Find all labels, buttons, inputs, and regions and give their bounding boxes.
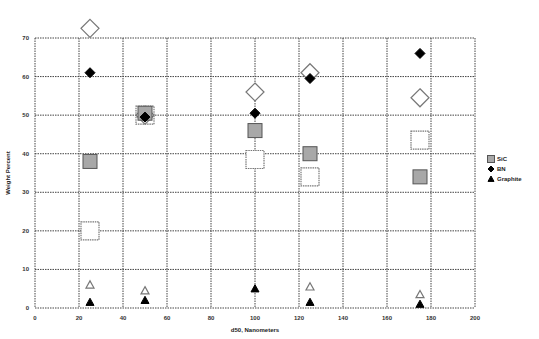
x-tick-label: 60	[164, 315, 171, 321]
x-tick-label: 160	[382, 315, 393, 321]
y-tick-label: 30	[22, 189, 29, 195]
y-axis-title: Weight Percent	[5, 151, 11, 195]
legend-item: Graphite	[488, 176, 522, 182]
grid-lines	[35, 38, 475, 308]
x-tick-label: 120	[294, 315, 305, 321]
square-data-point	[81, 222, 99, 240]
triangle-data-point	[416, 291, 424, 298]
triangle-data-point	[141, 296, 149, 303]
x-tick-label: 140	[338, 315, 349, 321]
diamond-data-point	[250, 108, 260, 118]
square-data-point	[83, 154, 97, 168]
square-data-point	[301, 168, 319, 186]
diamond-legend-icon	[488, 166, 494, 172]
triangle-data-point	[251, 285, 259, 292]
square-data-point	[246, 151, 264, 169]
y-tick-label: 40	[22, 151, 29, 157]
axis-ticks: 0204060801001201401601802000102030405060…	[22, 35, 480, 321]
legend-item: SiC	[488, 156, 508, 163]
x-tick-label: 200	[470, 315, 481, 321]
diamond-data-point	[411, 89, 429, 107]
square-data-point	[248, 124, 262, 138]
x-tick-label: 20	[76, 315, 83, 321]
square-data-point	[303, 147, 317, 161]
y-tick-label: 0	[26, 305, 30, 311]
x-axis-title: d50, Nanometers	[231, 327, 280, 333]
x-tick-label: 100	[250, 315, 261, 321]
triangle-data-point	[86, 281, 94, 288]
square-data-point	[413, 170, 427, 184]
triangle-legend-icon	[488, 176, 494, 181]
x-tick-label: 180	[426, 315, 437, 321]
triangle-data-point	[306, 298, 314, 305]
y-tick-label: 50	[22, 112, 29, 118]
triangle-data-point	[86, 298, 94, 305]
triangle-data-point	[416, 300, 424, 307]
x-tick-label: 40	[120, 315, 127, 321]
diamond-data-point	[246, 83, 264, 101]
legend: SiCBNGraphite	[488, 156, 523, 183]
square-data-point	[411, 131, 429, 149]
scatter-chart: 0204060801001201401601802000102030405060…	[0, 0, 539, 339]
legend-label: BN	[497, 166, 506, 172]
triangle-data-point	[306, 283, 314, 290]
y-tick-label: 20	[22, 228, 29, 234]
y-tick-label: 10	[22, 266, 29, 272]
x-tick-label: 80	[208, 315, 215, 321]
triangle-data-point	[141, 287, 149, 294]
legend-label: Graphite	[497, 176, 522, 182]
legend-item: BN	[488, 166, 506, 172]
square-legend-icon	[488, 156, 495, 163]
y-tick-label: 60	[22, 74, 29, 80]
diamond-data-point	[81, 19, 99, 37]
y-tick-label: 70	[22, 35, 29, 41]
x-tick-label: 0	[33, 315, 37, 321]
legend-label: SiC	[497, 156, 508, 162]
diamond-data-point	[415, 48, 425, 58]
